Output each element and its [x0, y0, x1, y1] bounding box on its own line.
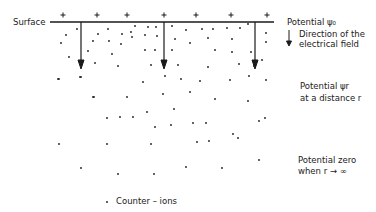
counter-ion-dot: [111, 53, 113, 55]
counter-ion-dot: [106, 143, 108, 145]
counter-ion-dot: [117, 173, 119, 175]
counter-ion-dot: [121, 33, 123, 35]
counter-ion-dot: [146, 111, 148, 113]
potential-r-label-1: Potential ψr: [300, 81, 349, 91]
counter-ion-dot: [214, 98, 216, 100]
counter-ion-dot: [238, 63, 240, 65]
counter-ion-dot: [154, 126, 156, 128]
counter-ion-dot: [192, 122, 194, 124]
counter-ion-dot: [180, 78, 182, 80]
field-direction-label-1: Direction of the: [299, 29, 365, 39]
counter-ion-dot: [156, 35, 158, 37]
counter-ion-dot: [265, 32, 267, 34]
counter-ion-dot: [258, 120, 260, 122]
counter-ion-dot: [68, 56, 70, 58]
positive-charge-icon: [61, 13, 66, 18]
potential-zero-label-2: when r → ∞: [298, 166, 347, 176]
potential-zero-label-1: Potential zero: [298, 155, 356, 165]
counter-ion-dot: [212, 28, 214, 30]
counter-ion-dot: [189, 91, 191, 93]
counter-ion-dot: [205, 122, 207, 124]
counter-ion-dot: [132, 116, 134, 118]
counter-ion-dot: [170, 124, 172, 126]
counter-ion-dot: [214, 49, 216, 51]
counter-ion-dot: [247, 100, 249, 102]
counter-ion-dot: [153, 173, 155, 175]
counter-ion-dot: [92, 96, 94, 98]
counter-ion-dot: [248, 75, 250, 77]
counter-ion-dot: [185, 29, 187, 31]
positive-charge-icon: [265, 13, 270, 18]
counter-ion-dot: [189, 42, 191, 44]
counter-ion-dot: [58, 143, 60, 145]
counter-ion-dot: [264, 117, 266, 119]
counter-ion-dot: [265, 79, 267, 81]
counter-ion-dot: [134, 25, 136, 27]
counter-ion-dot: [144, 34, 146, 36]
counter-ion-dot: [162, 93, 164, 95]
positive-charge-icon: [194, 13, 199, 18]
positive-charge-icon: [229, 13, 234, 18]
surface-label: Surface: [13, 17, 45, 27]
counter-ion-dot: [208, 140, 210, 142]
counter-ion-dot: [247, 23, 249, 25]
counter-ion-dot: [147, 26, 149, 28]
counter-ion-dot: [130, 31, 132, 33]
counter-ion-dot: [258, 159, 260, 161]
field-arrows: [78, 22, 258, 69]
counter-ion-dot: [65, 34, 67, 36]
counter-ion-dot: [60, 42, 62, 44]
counter-ion-legend-dot: [106, 201, 108, 203]
counter-ion-dot: [171, 25, 173, 27]
counter-ion-dot: [79, 76, 81, 78]
counter-ion-dot: [185, 166, 187, 168]
counter-ion-dot: [97, 33, 99, 35]
field-arrow-icon: [78, 22, 84, 69]
counter-ion-dot: [174, 38, 176, 40]
counter-ion-dot: [126, 96, 128, 98]
counter-ion-dot: [108, 40, 110, 42]
counter-ion-dot: [154, 49, 156, 51]
counter-ion-dot: [231, 51, 233, 53]
counter-ion-dot: [164, 75, 166, 77]
field-arrow-icon: [252, 22, 258, 69]
counter-ion-dot: [142, 81, 144, 83]
counter-ion-dot: [144, 49, 146, 51]
counter-ion-dot: [265, 41, 267, 43]
counter-ion-dot: [80, 167, 82, 169]
field-arrow-icon: [161, 22, 167, 69]
counter-ion-dot: [117, 65, 119, 67]
counter-ion-dot: [150, 64, 152, 66]
field-direction-label-2: electrical field: [299, 39, 359, 49]
counter-ion-dot: [237, 137, 239, 139]
counter-ion-dot: [229, 79, 231, 81]
field-direction-icon: [287, 30, 292, 46]
counter-ion-dot: [92, 40, 94, 42]
counter-ion-dot: [196, 141, 198, 143]
counter-ion-dot: [226, 27, 228, 29]
counter-ion-dot: [155, 26, 157, 28]
positive-charge-icon: [125, 13, 130, 18]
counter-ion-dot: [199, 80, 201, 82]
potential-r-label-2: at a distance r: [300, 93, 361, 103]
potential-surface-label: Potential ψ₀: [287, 17, 336, 27]
counter-ion-dot: [201, 28, 203, 30]
counter-ion-dots: [57, 23, 267, 175]
counter-ion-dot: [232, 133, 234, 135]
counter-ion-dot: [221, 167, 223, 169]
counter-ion-dot: [119, 116, 121, 118]
counter-ion-dot: [87, 50, 89, 52]
counter-ion-dot: [76, 28, 78, 30]
counter-ion-dot: [171, 49, 173, 51]
positive-charge-icon: [95, 13, 100, 18]
counter-ion-dot: [239, 27, 241, 29]
counter-ion-dot: [94, 62, 96, 64]
counter-ion-dot: [120, 43, 122, 45]
counter-ion-dot: [106, 117, 108, 119]
counter-ion-dot: [250, 51, 252, 53]
counter-ion-dot: [231, 38, 233, 40]
surface-charges: [61, 13, 270, 18]
counter-ion-dot: [57, 78, 59, 80]
counter-ion-dot: [107, 28, 109, 30]
counter-ions-legend-label: Counter – ions: [116, 196, 177, 206]
